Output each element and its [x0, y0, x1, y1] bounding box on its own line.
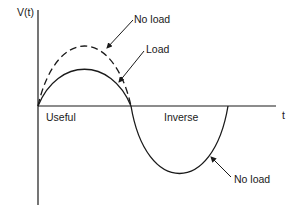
callout-no-load-bottom: No load [234, 174, 270, 185]
callout-leader-load [119, 51, 144, 82]
callout-leader-no-load-top [107, 20, 133, 48]
region-label-inverse: Inverse [164, 112, 198, 123]
callout-leader-no-load-bottom [211, 157, 231, 177]
x-axis-label: t [282, 110, 285, 121]
y-axis-label: V(t) [17, 7, 34, 18]
load-positive-curve [38, 69, 131, 106]
callout-load: Load [146, 44, 169, 55]
no-load-positive-curve [38, 46, 131, 106]
callout-no-load-top: No load [134, 14, 170, 25]
region-label-useful: Useful [46, 112, 76, 123]
